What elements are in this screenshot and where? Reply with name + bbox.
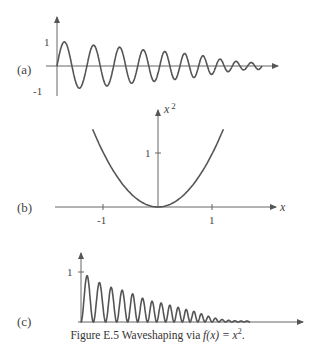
panel-a-waveform (57, 42, 262, 88)
panel-a-ytick-bottom: -1 (33, 85, 42, 97)
panel-b-xtick-pos-label: 1 (209, 214, 215, 226)
panel-b-label: (b) (17, 200, 32, 215)
panel-c-waveform (81, 276, 250, 322)
panel-c: (c) 1 (17, 253, 303, 329)
figure-caption: Figure E.5 Waveshaping via f(x) = x2. (0, 327, 315, 341)
panel-a-label: (a) (17, 62, 31, 77)
panel-a: (a) 1 -1 (17, 17, 278, 97)
panel-a-ytick-top: 1 (44, 36, 50, 48)
panel-b-ytick-label: 1 (145, 147, 151, 159)
panel-c-ytick-label: 1 (67, 266, 73, 278)
figure-canvas: (a) 1 -1 (b) x2 x 1 -1 1 (c) 1 (0, 0, 315, 362)
panel-b: (b) x2 x 1 -1 1 (17, 101, 286, 226)
panel-b-ylabel: x2 (163, 101, 176, 116)
panel-b-xtick-neg-label: -1 (97, 214, 106, 226)
panel-b-xlabel: x (279, 200, 286, 214)
